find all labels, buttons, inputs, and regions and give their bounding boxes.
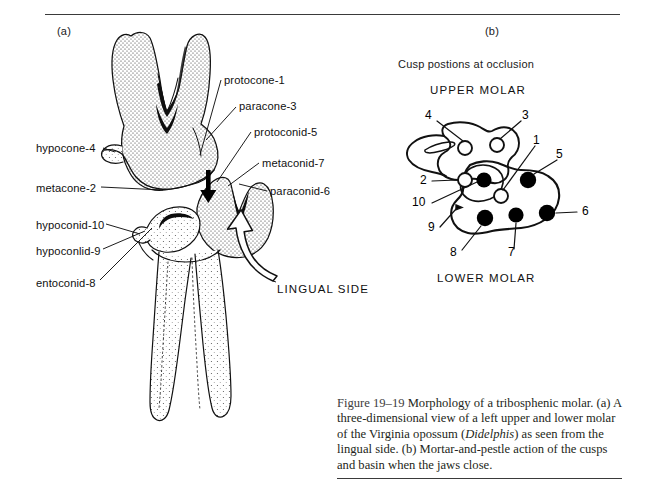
cusp-dot-7 — [508, 207, 523, 222]
label-upper-molar: UPPER MOLAR — [430, 84, 526, 96]
cusp-9-notch — [456, 205, 462, 210]
callout-3: 3 — [522, 108, 529, 122]
callout-10: 10 — [412, 195, 425, 209]
figure-caption: Figure 19–19 Morphology of a tribospheni… — [337, 396, 625, 473]
cusp-dot-8 — [477, 210, 493, 226]
panel-b-heading: Cusp postions at occlusion — [398, 58, 534, 70]
figure-page: (a) (b) — [0, 0, 659, 494]
callout-5: 5 — [556, 147, 563, 161]
leader-b-8 — [462, 226, 481, 250]
cusp-circle-1 — [494, 189, 508, 203]
callout-6: 6 — [582, 204, 589, 218]
callout-4: 4 — [425, 108, 432, 122]
callout-2: 2 — [420, 173, 427, 187]
label-lower-molar: LOWER MOLAR — [437, 272, 535, 284]
leader-b-2 — [432, 180, 457, 181]
cusp-dot-10 — [476, 172, 491, 187]
cusp-dot-6 — [539, 205, 555, 221]
cusp-circle-4 — [458, 141, 472, 155]
leader-b-5 — [534, 160, 557, 174]
callout-8: 8 — [450, 245, 457, 259]
callout-7: 7 — [508, 245, 515, 259]
callout-9: 9 — [428, 220, 435, 234]
callout-1: 1 — [533, 133, 540, 147]
panel-b-leader-lines — [432, 121, 577, 250]
caption-italic-genus: Didelphis — [465, 427, 514, 441]
caption-figure-number: Figure 19–19 — [337, 396, 405, 410]
cusp-circle-3 — [490, 138, 504, 152]
leader-b-6 — [556, 212, 577, 213]
